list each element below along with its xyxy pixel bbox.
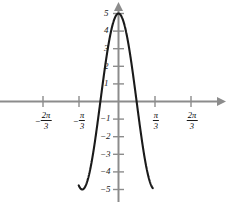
y-tick-label-neg3: −3	[100, 150, 111, 159]
y-tick-label-neg5: −5	[100, 185, 111, 194]
fraction-denominator: 3	[187, 121, 198, 131]
fraction-numerator: π	[79, 110, 85, 121]
fraction-numerator: 2π	[41, 110, 52, 121]
fraction: 2π 3	[187, 110, 198, 131]
fraction-denominator: 3	[79, 121, 85, 131]
x-tick-label-neg-pi-over-3: − π 3	[73, 110, 85, 131]
fraction-denominator: 3	[153, 121, 159, 131]
fraction: 2π 3	[41, 110, 52, 131]
y-tick-label-2: 2	[104, 62, 109, 71]
y-tick-label-neg1: −1	[100, 114, 111, 123]
x-tick-label-pi-over-3: π 3	[153, 110, 159, 131]
y-axis-arrow-icon	[114, 2, 123, 11]
x-tick-label-2pi-over-3: 2π 3	[187, 110, 198, 131]
y-tick-label-neg2: −2	[100, 132, 111, 141]
cosine-graph-figure: 5 4 3 2 1 −1 −2 −3 −4 −5 − 2π 3 − π 3 π …	[0, 0, 230, 202]
y-tick-label-1: 1	[104, 79, 109, 88]
x-axis-arrow-icon	[217, 97, 226, 106]
y-tick-label-5: 5	[104, 9, 109, 18]
y-tick-label-neg4: −4	[100, 167, 111, 176]
fraction-numerator: π	[153, 110, 159, 121]
y-tick-label-4: 4	[104, 26, 109, 35]
fraction: π 3	[79, 110, 85, 131]
plot-canvas	[0, 0, 230, 202]
fraction: π 3	[153, 110, 159, 131]
fraction-numerator: 2π	[187, 110, 198, 121]
x-tick-label-neg-2pi-over-3: − 2π 3	[35, 110, 52, 131]
fraction-denominator: 3	[41, 121, 52, 131]
y-tick-label-3: 3	[104, 44, 109, 53]
